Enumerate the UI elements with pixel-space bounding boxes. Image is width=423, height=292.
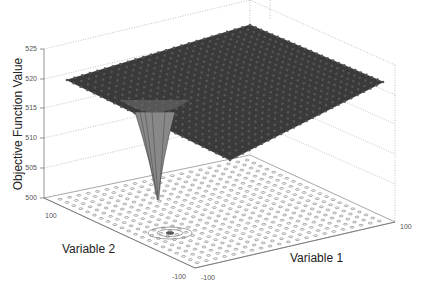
- y-tick-100: 100: [45, 212, 57, 219]
- z-tick-520: 520: [25, 75, 37, 82]
- y-tick-neg100: -100: [172, 273, 186, 280]
- x-tick-neg100: -100: [201, 274, 215, 281]
- z-tick-500: 500: [25, 194, 37, 201]
- y-axis-label: Variable 2: [62, 242, 115, 256]
- z-tick-510: 510: [25, 134, 37, 141]
- z-axis-label: Objective Function Value: [11, 57, 25, 190]
- surface-plot: 525 520 515 510 505 500 100 -100 -100 10…: [0, 0, 423, 292]
- z-tick-505: 505: [25, 164, 37, 171]
- x-axis-label: Variable 1: [290, 251, 343, 265]
- z-tick-515: 515: [25, 104, 37, 111]
- z-tick-525: 525: [25, 45, 37, 52]
- x-tick-100: 100: [400, 223, 412, 230]
